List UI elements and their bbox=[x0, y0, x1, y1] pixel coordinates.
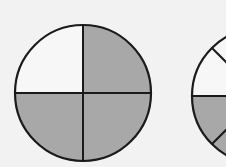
circle-partial-eighths bbox=[192, 28, 226, 164]
lower-half-shaded bbox=[192, 96, 226, 164]
upper-half-unshaded bbox=[192, 28, 226, 96]
fraction-circles-diagram bbox=[0, 0, 226, 167]
circle-quarters bbox=[15, 25, 151, 161]
